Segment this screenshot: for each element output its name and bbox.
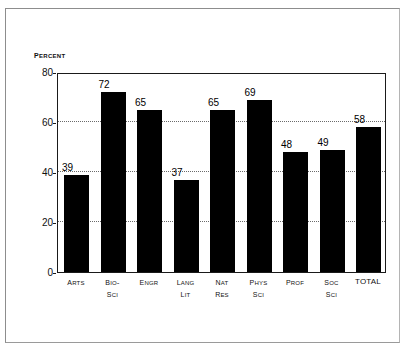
y-axis-caption: Percent xyxy=(34,48,65,60)
bar-slot: 58 xyxy=(356,72,393,272)
x-label: Bio-Sci xyxy=(94,276,132,300)
x-label: LangLit xyxy=(167,276,205,300)
bar-series: 397265376569484958 xyxy=(58,74,385,272)
bar xyxy=(210,110,235,273)
bar-value-label: 49 xyxy=(318,138,329,148)
x-label: PhysSci xyxy=(240,276,278,300)
bar-value-label: 65 xyxy=(135,98,146,108)
x-label-line: Res xyxy=(203,288,241,300)
y-tick-mark-80 xyxy=(53,73,56,74)
x-label: NatRes xyxy=(203,276,241,300)
x-label: Prof xyxy=(276,276,314,288)
y-tick-label-40: 40 xyxy=(31,168,53,178)
bar xyxy=(356,127,381,272)
y-tick-mark-0 xyxy=(53,273,56,274)
bar-value-label: 58 xyxy=(354,115,365,125)
x-label-line: Lang xyxy=(167,276,205,288)
bar-slot: 65 xyxy=(137,72,174,272)
bar xyxy=(247,100,272,273)
x-label-line: Sci xyxy=(313,288,351,300)
bar-slot: 69 xyxy=(247,72,284,272)
bar-slot: 65 xyxy=(210,72,247,272)
x-label-line: Engr xyxy=(130,276,168,288)
y-tick-mark-60 xyxy=(53,123,56,124)
bar-value-label: 48 xyxy=(281,140,292,150)
y-tick-mark-20 xyxy=(53,223,56,224)
bar-slot: 37 xyxy=(174,72,211,272)
bar-slot: 49 xyxy=(320,72,357,272)
x-label-line: TOTAL xyxy=(349,276,387,287)
x-label: SocSci xyxy=(313,276,351,300)
bar-value-label: 72 xyxy=(99,80,110,90)
bar xyxy=(101,92,126,272)
plot-area: 397265376569484958 xyxy=(57,73,386,273)
y-tick-mark-40 xyxy=(53,173,56,174)
x-label-line: Bio- xyxy=(94,276,132,288)
x-label: Arts xyxy=(57,276,95,288)
x-label: Engr xyxy=(130,276,168,288)
bar-slot: 48 xyxy=(283,72,320,272)
x-label-line: Lit xyxy=(167,288,205,300)
x-label-line: Arts xyxy=(57,276,95,288)
bar xyxy=(64,175,89,273)
y-tick-label-0: 0 xyxy=(31,268,53,278)
x-label-line: Soc xyxy=(313,276,351,288)
x-label-line: Prof xyxy=(276,276,314,288)
x-label-line: Sci xyxy=(94,288,132,300)
bar-value-label: 65 xyxy=(208,98,219,108)
bar-chart-figure: Percent 020406080 397265376569484958 Art… xyxy=(0,0,412,352)
bar xyxy=(320,150,345,273)
y-tick-label-60: 60 xyxy=(31,118,53,128)
bar xyxy=(283,152,308,272)
x-label-line: Nat xyxy=(203,276,241,288)
x-axis-category-labels: ArtsBio-SciEngrLangLitNatResPhysSciProfS… xyxy=(57,276,386,321)
bar-value-label: 69 xyxy=(245,88,256,98)
x-label: TOTAL xyxy=(349,276,387,287)
x-label-line: Phys xyxy=(240,276,278,288)
bar-value-label: 39 xyxy=(62,163,73,173)
bar-value-label: 37 xyxy=(172,168,183,178)
y-axis-tick-labels: 020406080 xyxy=(28,73,53,273)
y-tick-label-20: 20 xyxy=(31,218,53,228)
y-tick-label-80: 80 xyxy=(31,68,53,78)
bar-slot: 72 xyxy=(101,72,138,272)
bar xyxy=(137,110,162,273)
bar xyxy=(174,180,199,273)
x-label-line: Sci xyxy=(240,288,278,300)
bar-slot: 39 xyxy=(64,72,101,272)
